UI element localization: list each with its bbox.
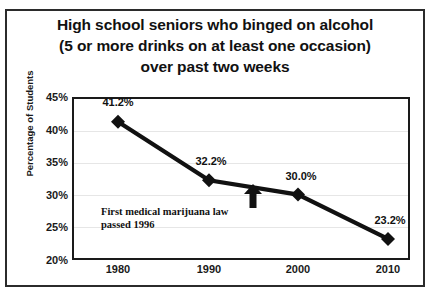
marker-2000 [291, 188, 305, 202]
data-label-1990: 32.2% [176, 155, 246, 167]
data-series-line [72, 97, 410, 260]
y-axis-tick-labels: 45% 40% 35% 30% 25% 20% [22, 97, 68, 260]
y-tick-45: 45% [28, 91, 68, 103]
data-label-2000: 30.0% [266, 170, 336, 182]
page-title: High school seniors who binged on alcoho… [10, 14, 420, 77]
annotation-line-2: passed 1996 [101, 218, 301, 231]
y-tick-30: 30% [28, 189, 68, 201]
annotation-line-1: First medical marijuana law [101, 205, 301, 218]
data-label-2010: 23.2% [355, 214, 425, 226]
marker-2010 [381, 232, 395, 246]
annotation-medical-marijuana-note: First medical marijuana law passed 1996 [101, 205, 301, 231]
title-line-3: over past two weeks [10, 56, 420, 77]
data-label-1980: 41.2% [83, 96, 153, 108]
x-tick-1990: 1990 [179, 263, 239, 275]
x-tick-1980: 1980 [88, 263, 148, 275]
title-line-1: High school seniors who binged on alcoho… [10, 14, 420, 35]
y-tick-20: 20% [28, 254, 68, 266]
x-tick-2010: 2010 [358, 263, 418, 275]
x-axis-tick-labels: 1980 1990 2000 2010 [72, 263, 410, 281]
y-tick-35: 35% [28, 156, 68, 168]
y-tick-25: 25% [28, 221, 68, 233]
title-line-2: (5 or more drinks on at least one occasi… [10, 35, 420, 56]
chart-screenshot: High school seniors who binged on alcoho… [0, 0, 433, 294]
y-tick-40: 40% [28, 124, 68, 136]
x-tick-2000: 2000 [268, 263, 328, 275]
up-arrow-icon [240, 183, 266, 209]
